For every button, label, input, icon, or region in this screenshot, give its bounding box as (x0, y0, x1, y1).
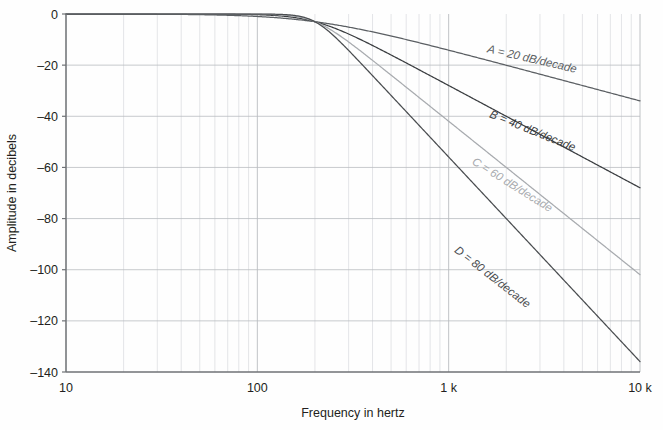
curve-annotation-d: D = 80 dB/decade (453, 244, 533, 310)
curve-b (66, 14, 640, 188)
y-tick-label: –120 (30, 314, 58, 328)
x-tick-label: 10 k (628, 381, 652, 395)
y-tick-label: 0 (51, 8, 58, 22)
curve-annotation-c: C = 60 dB/decade (470, 155, 555, 214)
y-tick-label: –20 (37, 59, 58, 73)
x-tick-label: 100 (247, 381, 268, 395)
y-axis-title: Amplitude in decibels (5, 134, 19, 252)
chart-figure: 0–20–40–60–80–100–120–140101001 k10 kFre… (0, 0, 663, 430)
y-tick-label: –60 (37, 161, 58, 175)
y-tick-label: –40 (37, 110, 58, 124)
x-tick-label: 10 (59, 381, 73, 395)
y-tick-label: –80 (37, 212, 58, 226)
y-tick-label: –140 (30, 366, 58, 380)
y-tick-label: –100 (30, 263, 58, 277)
bode-plot: 0–20–40–60–80–100–120–140101001 k10 kFre… (0, 0, 663, 430)
x-tick-label: 1 k (440, 381, 457, 395)
x-axis-title: Frequency in hertz (301, 406, 405, 420)
labels: 0–20–40–60–80–100–120–140101001 k10 kFre… (5, 8, 653, 421)
